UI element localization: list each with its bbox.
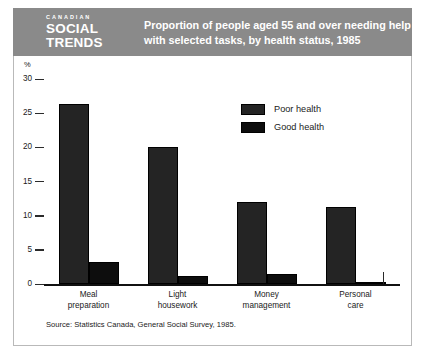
x-axis-label-meal-preparation: Mealpreparation	[44, 290, 133, 311]
y-tick-label-5: 5	[27, 245, 32, 255]
legend-label-good-health: Good health	[274, 121, 324, 134]
y-tick-mark-30	[35, 79, 44, 80]
y-tick-label-25: 25	[23, 108, 32, 118]
baseline-tick-mark	[383, 272, 384, 284]
canadian-social-trends-logo: CANADIAN SOCIAL TRENDS	[46, 13, 134, 50]
y-tick-label-20: 20	[23, 142, 32, 152]
legend-swatch-good-health	[241, 122, 265, 133]
y-tick-label-30: 30	[23, 74, 32, 84]
header-band: CANADIAN SOCIAL TRENDS Proportion of peo…	[13, 8, 412, 56]
y-tick-mark-0	[35, 284, 44, 285]
bar-meal-preparation-good-health	[89, 262, 119, 284]
y-tick-mark-20	[35, 147, 44, 148]
y-tick-mark-15	[35, 181, 44, 182]
y-tick-mark-5	[35, 249, 44, 250]
y-tick-10: 10	[13, 211, 44, 221]
legend-swatch-poor-health	[241, 104, 265, 115]
y-tick-30: 30	[13, 74, 44, 84]
y-tick-label-0: 0	[27, 279, 32, 289]
y-tick-0: 0	[13, 279, 44, 289]
bar-light-housework-poor-health	[148, 147, 178, 284]
y-tick-label-10: 10	[23, 211, 32, 221]
y-tick-20: 20	[13, 142, 44, 152]
y-tick-mark-25	[35, 113, 44, 114]
bar-light-housework-good-health	[178, 276, 208, 284]
legend-label-poor-health: Poor health	[274, 103, 321, 116]
logo-line-1: SOCIAL	[46, 22, 134, 36]
plot-area: % 051015202530 MealpreparationLighthouse…	[13, 56, 412, 346]
bar-money-management-good-health	[267, 274, 297, 284]
x-axis-label-light-housework: Lighthousework	[133, 290, 222, 311]
chart-title-line-2: with selected tasks, by health status, 1…	[144, 33, 412, 48]
x-axis-label-money-management: Moneymanagement	[222, 290, 311, 311]
logo-line-2: TRENDS	[46, 36, 134, 50]
x-axis-line	[44, 284, 400, 286]
bar-meal-preparation-poor-health	[59, 104, 89, 284]
y-tick-5: 5	[13, 245, 44, 255]
chart-title-line-1: Proportion of people aged 55 and over ne…	[144, 18, 412, 33]
bar-personal-care-poor-health	[326, 207, 356, 284]
chart-title: Proportion of people aged 55 and over ne…	[144, 18, 412, 47]
y-tick-15: 15	[13, 177, 44, 187]
y-axis-unit-label: %	[24, 60, 31, 69]
x-axis-label-personal-care: Personalcare	[311, 290, 400, 311]
y-tick-label-15: 15	[23, 177, 32, 187]
y-tick-25: 25	[13, 108, 44, 118]
bar-money-management-poor-health	[237, 202, 267, 284]
source-note: Source: Statistics Canada, General Socia…	[46, 320, 236, 329]
figure-canvas: CANADIAN SOCIAL TRENDS Proportion of peo…	[0, 0, 425, 357]
y-tick-mark-10	[35, 215, 44, 216]
